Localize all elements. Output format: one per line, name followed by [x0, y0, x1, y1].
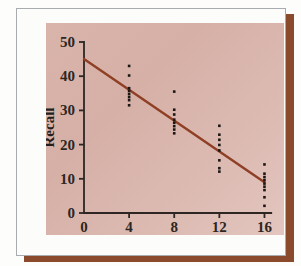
data-point — [218, 139, 221, 142]
data-point — [263, 189, 266, 192]
data-point — [218, 144, 221, 147]
y-axis-title: Recall — [46, 108, 57, 148]
x-axis-tick-labels: 0481216 — [80, 219, 272, 235]
data-point — [173, 108, 176, 111]
scatter-plot-svg: 0481216 01020304050 Dosage Recall — [46, 23, 284, 235]
data-point — [218, 167, 221, 170]
data-point — [173, 90, 176, 93]
figure-root: 0481216 01020304050 Dosage Recall — [0, 0, 301, 266]
data-point — [263, 172, 266, 175]
data-point — [218, 149, 221, 152]
data-point — [263, 163, 266, 166]
data-point — [263, 185, 266, 188]
data-point — [218, 133, 221, 136]
y-tick-label: 30 — [60, 102, 75, 118]
x-tick-label: 16 — [257, 219, 273, 235]
data-point — [263, 182, 266, 185]
data-point — [173, 132, 176, 135]
data-point — [128, 93, 131, 96]
data-point — [263, 176, 266, 179]
y-tick-label: 0 — [68, 205, 76, 221]
figure-card: 0481216 01020304050 Dosage Recall — [16, 8, 286, 256]
data-point — [128, 99, 131, 102]
data-point — [173, 113, 176, 116]
data-point — [173, 118, 176, 121]
data-point — [173, 125, 176, 128]
data-point — [263, 179, 266, 182]
x-tick-label: 0 — [80, 219, 88, 235]
y-tick-label: 50 — [60, 34, 75, 50]
x-tick-label: 4 — [125, 219, 133, 235]
tick-marks-group — [79, 42, 264, 218]
data-point — [128, 96, 131, 99]
data-point — [128, 74, 131, 77]
axes-group — [84, 42, 271, 213]
y-tick-label: 20 — [60, 137, 75, 153]
data-point — [128, 65, 131, 68]
y-tick-label: 10 — [60, 171, 75, 187]
plot-panel: 0481216 01020304050 Dosage Recall — [46, 23, 284, 235]
data-point — [173, 121, 176, 124]
data-point — [128, 90, 131, 93]
data-point — [128, 104, 131, 107]
data-point — [218, 159, 221, 162]
data-point — [218, 124, 221, 127]
data-point — [263, 196, 266, 199]
y-axis-tick-labels: 01020304050 — [60, 34, 75, 221]
data-point — [218, 170, 221, 173]
data-point — [263, 205, 266, 208]
data-point — [173, 128, 176, 131]
x-tick-label: 8 — [170, 219, 178, 235]
data-point — [128, 87, 131, 90]
y-tick-label: 40 — [60, 68, 75, 84]
x-tick-label: 12 — [212, 219, 227, 235]
